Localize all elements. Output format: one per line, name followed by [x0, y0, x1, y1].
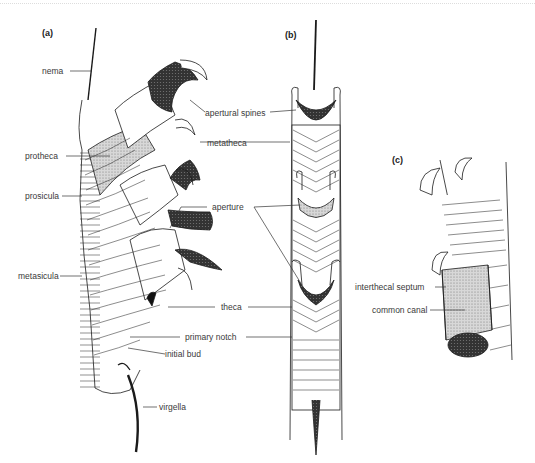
panel-a-drawing [79, 28, 222, 452]
figure: (a) (b) (c) nema apertural spines prothe… [0, 0, 535, 463]
label-prosicula: prosicula [25, 191, 59, 201]
label-apertural-spines: apertural spines [205, 108, 265, 118]
label-metatheca: metatheca [207, 138, 247, 148]
label-theca: theca [221, 302, 242, 312]
label-common-canal: common canal [372, 305, 427, 315]
label-interthecal-septum: interthecal septum [355, 282, 424, 292]
panel-a-label: (a) [42, 28, 53, 38]
label-nema: nema [42, 66, 63, 76]
label-protheca: protheca [25, 151, 58, 161]
panel-c-label: (c) [392, 155, 403, 165]
panel-b-label: (b) [285, 30, 297, 40]
illustration [0, 0, 535, 463]
label-initial-bud: initial bud [165, 349, 201, 359]
panel-c-drawing [420, 158, 512, 360]
label-virgella: virgella [159, 402, 186, 412]
label-primary-notch: primary notch [185, 332, 237, 342]
panel-b-drawing [290, 20, 342, 455]
label-metasicula: metasicula [18, 271, 59, 281]
label-aperture: aperture [212, 202, 244, 212]
